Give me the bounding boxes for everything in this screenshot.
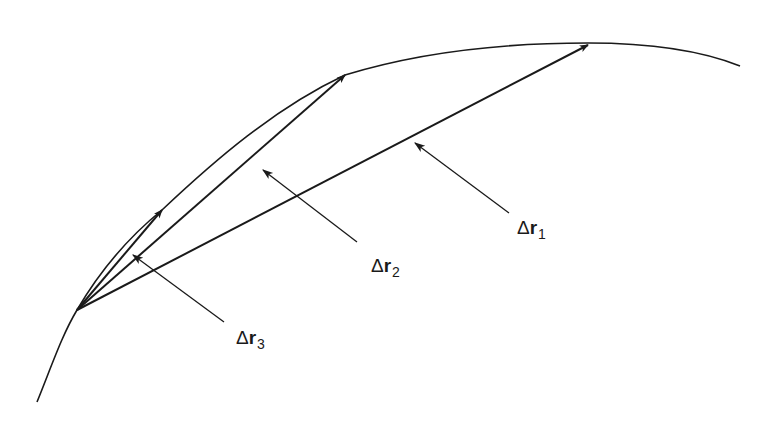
trajectory-curve	[37, 43, 740, 402]
delta-symbol: Δ	[236, 327, 249, 348]
vector-symbol: r	[530, 217, 537, 238]
displacement-vectors-diagram	[0, 0, 778, 432]
leader-dr1	[415, 143, 509, 213]
vector-dr3-arrow	[77, 210, 162, 310]
vector-subscript: 2	[392, 264, 400, 280]
delta-symbol: Δ	[371, 255, 384, 276]
leader-dr3	[133, 255, 224, 322]
vector-subscript: 1	[538, 226, 546, 242]
label-dr1: Δr1	[517, 218, 546, 237]
vector-subscript: 3	[257, 336, 265, 352]
delta-symbol: Δ	[517, 217, 530, 238]
label-dr3: Δr3	[236, 328, 265, 347]
label-dr2: Δr2	[371, 256, 400, 275]
vector-symbol: r	[249, 327, 256, 348]
vector-symbol: r	[384, 255, 391, 276]
